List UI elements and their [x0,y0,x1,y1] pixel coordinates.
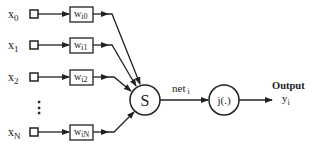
weight-label-2: wi2 [74,71,87,84]
input-node-0 [30,10,38,18]
input-label-1: x1 [8,38,19,54]
output-label: yi [282,92,291,107]
weight-label-0: wi0 [74,8,87,21]
input-node-1 [30,41,38,49]
weight-label-1: wi1 [74,39,87,52]
input-label-2: x2 [8,70,19,86]
activation-label: j(.) [216,94,230,107]
weight-label-n: wiN [74,126,89,139]
input-label-0: x0 [8,7,19,23]
input-row-n: xN wiN [8,112,134,141]
sum-node: S [130,85,160,115]
net-label: neti [172,82,190,96]
activation-node: j(.) [209,85,239,115]
input-label-n: xN [8,125,21,141]
ellipsis: ⋮ [31,99,47,116]
input-node-n [30,128,38,136]
input-row-2: x2 wi2 [8,70,131,91]
input-node-2 [30,73,38,81]
output-title: Output [272,80,305,91]
sum-label: S [141,92,150,109]
neuron-diagram: x0 wi0 x1 wi1 x2 wi2 ⋮ xN wiN [0,0,316,151]
